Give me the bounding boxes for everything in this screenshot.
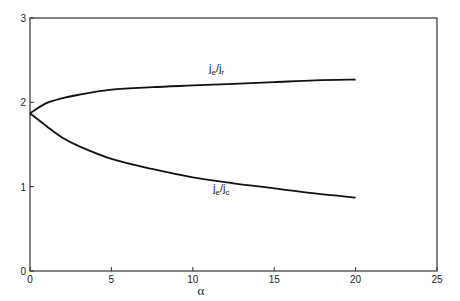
x-tick-label: 5	[109, 274, 115, 285]
plot-frame	[30, 18, 437, 271]
curve-je-jc	[30, 113, 356, 197]
y-tick-label: 2	[20, 97, 26, 108]
curve-label-je-jc: je/jc	[212, 182, 229, 197]
curve-je-jr	[30, 80, 356, 114]
y-tick-label: 0	[20, 266, 26, 277]
chart: 05101520250123αje/jrje/jc	[0, 0, 460, 301]
x-tick-label: 15	[269, 274, 281, 285]
x-tick-label: 20	[350, 274, 362, 285]
x-tick-label: 0	[27, 274, 33, 285]
y-tick-label: 1	[20, 182, 26, 193]
x-axis-label: α	[198, 283, 205, 298]
x-tick-label: 25	[431, 274, 443, 285]
y-tick-label: 3	[20, 13, 26, 24]
curve-label-je-jr: je/jr	[208, 62, 224, 77]
